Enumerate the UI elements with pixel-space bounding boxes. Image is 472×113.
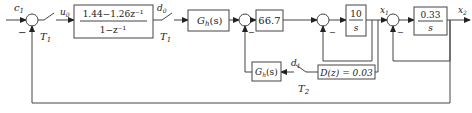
- dz-feedback-line: [375, 20, 378, 72]
- d1-label: d1: [291, 58, 301, 69]
- integrator-2-denominator: s: [428, 23, 433, 33]
- summing-junction-1: [26, 14, 38, 26]
- summing-junction-3: [317, 14, 329, 26]
- sampler-switch-1: [44, 13, 54, 20]
- integrator-2-numerator: 0.33: [420, 10, 440, 20]
- block-diagram: c1 − T1 u0 1.44−1.26z⁻¹ 1−z⁻¹ d0 T1 Gh(s…: [0, 0, 472, 113]
- summing-junction-2: [239, 14, 251, 26]
- x2-label: x2: [458, 5, 467, 16]
- minus-sign-2: −: [248, 28, 255, 37]
- hold-2-label: Gh(s): [255, 67, 278, 78]
- sampler-1-label: T1: [40, 31, 51, 44]
- x1-label: x1: [380, 5, 389, 16]
- sampler-2-label: T1: [160, 31, 171, 44]
- minus-sign-4: −: [397, 28, 404, 37]
- integrator-1-numerator: 10: [350, 9, 362, 19]
- integrator-1-denominator: s: [354, 23, 359, 33]
- sampler-3-label: T2: [298, 83, 310, 96]
- minus-sign-1: −: [18, 27, 26, 38]
- sampler-switch-2: [162, 13, 172, 20]
- summing-junction-4: [387, 14, 399, 26]
- input-label: c1: [14, 2, 24, 15]
- gain-value: 66.7: [258, 15, 280, 26]
- controller-numerator: 1.44−1.26z⁻¹: [83, 9, 144, 19]
- u0-label: u0: [60, 7, 70, 18]
- d0-label: d0: [157, 3, 167, 14]
- controller-denominator: 1−z⁻¹: [100, 25, 126, 35]
- minus-sign-3: −: [329, 28, 336, 37]
- inner-controller-label: D(z) = 0.03: [319, 68, 373, 78]
